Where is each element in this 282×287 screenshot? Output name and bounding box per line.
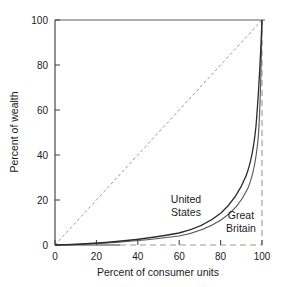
great-britain-label-line2: Britain [226,222,256,234]
great-britain-label-line1: Great [228,209,254,221]
y-tick-label-0: 0 [42,240,48,251]
x-tick-label-20: 20 [91,251,103,262]
x-tick-label-60: 60 [174,251,186,262]
y-tick-label-20: 20 [37,195,49,206]
x-tick-label-80: 80 [215,251,227,262]
x-tick-label-40: 40 [132,251,144,262]
y-tick-label-60: 60 [37,105,49,116]
x-tick-label-0: 0 [52,251,58,262]
y-tick-label-40: 40 [37,150,49,161]
y-tick-label-100: 100 [31,15,48,26]
united-states-label-line1: United [171,193,202,205]
united-states-label-line2: States [171,206,201,218]
x-axis-title: Percent of consumer units [97,266,219,278]
y-axis-title: Percent of wealth [8,91,20,172]
y-tick-label-80: 80 [37,60,49,71]
lorenz-curve-figure: 0 20 40 60 80 100 0 20 40 60 80 100 Perc… [0,0,282,287]
chart-canvas: 0 20 40 60 80 100 0 20 40 60 80 100 Perc… [0,0,282,287]
y-axis-ticks [55,20,60,245]
x-tick-label-100: 100 [254,251,271,262]
